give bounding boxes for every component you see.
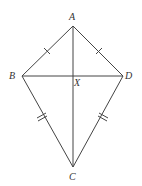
vertex-label-b: B bbox=[9, 71, 15, 81]
kite-figure bbox=[0, 0, 142, 186]
intersection-label-x: X bbox=[74, 78, 80, 88]
kite-diagram: A B D X C bbox=[0, 0, 142, 186]
tick-mark-ad bbox=[96, 48, 102, 54]
side-ad bbox=[73, 26, 123, 76]
vertex-label-c: C bbox=[69, 172, 76, 182]
vertex-label-a: A bbox=[69, 12, 75, 22]
side-dc bbox=[73, 76, 123, 167]
side-bc bbox=[22, 76, 73, 167]
vertex-label-d: D bbox=[125, 71, 132, 81]
